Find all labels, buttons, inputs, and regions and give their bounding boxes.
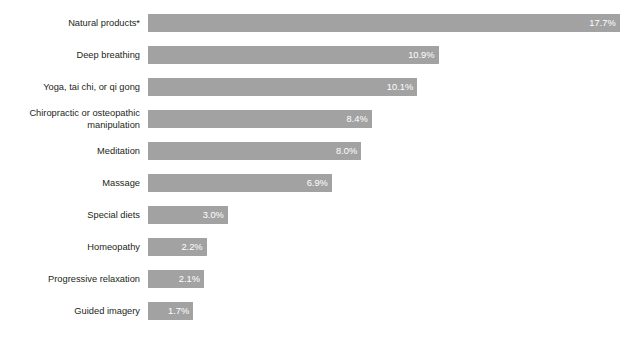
bar-track: 10.9% bbox=[148, 46, 643, 64]
bar-value-label: 2.1% bbox=[179, 270, 200, 288]
bar[interactable]: 10.9% bbox=[148, 46, 439, 64]
bar-row: Meditation8.0% bbox=[0, 142, 643, 174]
bar-row: Yoga, tai chi, or qi gong10.1% bbox=[0, 78, 643, 110]
bar[interactable]: 2.1% bbox=[148, 270, 204, 288]
bar-row: Deep breathing10.9% bbox=[0, 46, 643, 78]
bar[interactable]: 8.0% bbox=[148, 142, 361, 160]
bar-row-label: Special diets bbox=[0, 206, 140, 222]
bar-row: Special diets3.0% bbox=[0, 206, 643, 238]
bar-value-label: 3.0% bbox=[203, 206, 224, 224]
bar-row-label: Guided imagery bbox=[0, 302, 140, 318]
bar-value-label: 17.7% bbox=[589, 14, 615, 32]
bar-row-label: Natural products* bbox=[0, 14, 140, 30]
bar-rows: Natural products*17.7%Deep breathing10.9… bbox=[0, 14, 643, 334]
bar-track: 8.0% bbox=[148, 142, 643, 160]
bar-track: 1.7% bbox=[148, 302, 643, 320]
bar[interactable]: 17.7% bbox=[148, 14, 620, 32]
bar-row: Homeopathy2.2% bbox=[0, 238, 643, 270]
bar-row: Progressive relaxation2.1% bbox=[0, 270, 643, 302]
bar-track: 6.9% bbox=[148, 174, 643, 192]
bar-track: 3.0% bbox=[148, 206, 643, 224]
bar-row: Guided imagery1.7% bbox=[0, 302, 643, 334]
bar-row-label: Homeopathy bbox=[0, 238, 140, 254]
bar-track: 8.4% bbox=[148, 110, 643, 128]
bar-value-label: 8.4% bbox=[347, 110, 368, 128]
bar-track: 17.7% bbox=[148, 14, 643, 32]
bar-row: Massage6.9% bbox=[0, 174, 643, 206]
bar[interactable]: 1.7% bbox=[148, 302, 193, 320]
bar-value-label: 2.2% bbox=[181, 238, 202, 256]
bar-row: Chiropractic or osteopathic manipulation… bbox=[0, 110, 643, 142]
bar-row: Natural products*17.7% bbox=[0, 14, 643, 46]
bar[interactable]: 6.9% bbox=[148, 174, 332, 192]
bar-row-label: Meditation bbox=[0, 142, 140, 158]
bar[interactable]: 2.2% bbox=[148, 238, 207, 256]
bar-row-label: Massage bbox=[0, 174, 140, 190]
bar-value-label: 1.7% bbox=[168, 302, 189, 320]
bar-value-label: 8.0% bbox=[336, 142, 357, 160]
bar-track: 2.2% bbox=[148, 238, 643, 256]
bar-row-label: Progressive relaxation bbox=[0, 270, 140, 286]
bar-chart: Natural products*17.7%Deep breathing10.9… bbox=[0, 0, 643, 338]
bar-track: 10.1% bbox=[148, 78, 643, 96]
bar-value-label: 6.9% bbox=[307, 174, 328, 192]
bar-row-label: Yoga, tai chi, or qi gong bbox=[0, 78, 140, 94]
bar[interactable]: 10.1% bbox=[148, 78, 417, 96]
bar-value-label: 10.1% bbox=[387, 78, 413, 96]
bar[interactable]: 8.4% bbox=[148, 110, 372, 128]
bar-track: 2.1% bbox=[148, 270, 643, 288]
bar-value-label: 10.9% bbox=[408, 46, 434, 64]
bar-row-label: Chiropractic or osteopathic manipulation bbox=[0, 108, 140, 131]
bar-row-label: Deep breathing bbox=[0, 46, 140, 62]
bar[interactable]: 3.0% bbox=[148, 206, 228, 224]
